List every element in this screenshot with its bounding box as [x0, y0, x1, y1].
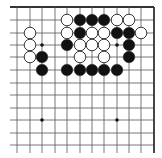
white-stone	[98, 39, 110, 51]
white-stone	[111, 14, 123, 26]
black-stone	[61, 39, 73, 51]
hoshi-point	[40, 43, 44, 47]
black-stone	[74, 64, 86, 76]
white-stone	[123, 14, 135, 26]
black-stone	[98, 14, 110, 26]
white-stone	[61, 27, 73, 39]
black-stone	[74, 14, 86, 26]
black-stone	[123, 39, 135, 51]
black-stone	[36, 51, 48, 63]
black-stone	[111, 27, 123, 39]
white-stone	[74, 51, 86, 63]
hoshi-point	[115, 43, 119, 47]
white-stone	[61, 14, 73, 26]
black-stone	[86, 64, 98, 76]
white-stone	[24, 51, 36, 63]
white-stone	[24, 39, 36, 51]
white-stone	[24, 27, 36, 39]
white-stone	[86, 39, 98, 51]
black-stone	[123, 51, 135, 63]
white-stone	[98, 27, 110, 39]
hoshi-point	[115, 118, 119, 122]
hoshi-point	[40, 118, 44, 122]
black-stone	[86, 14, 98, 26]
black-stone	[111, 64, 123, 76]
white-stone	[74, 39, 86, 51]
black-stone	[98, 64, 110, 76]
white-stone	[135, 27, 147, 39]
black-stone	[36, 64, 48, 76]
white-stone	[98, 51, 110, 63]
black-stone	[61, 64, 73, 76]
go-board[interactable]	[0, 0, 162, 158]
white-stone	[86, 27, 98, 39]
black-stone	[123, 27, 135, 39]
black-stone	[74, 27, 86, 39]
